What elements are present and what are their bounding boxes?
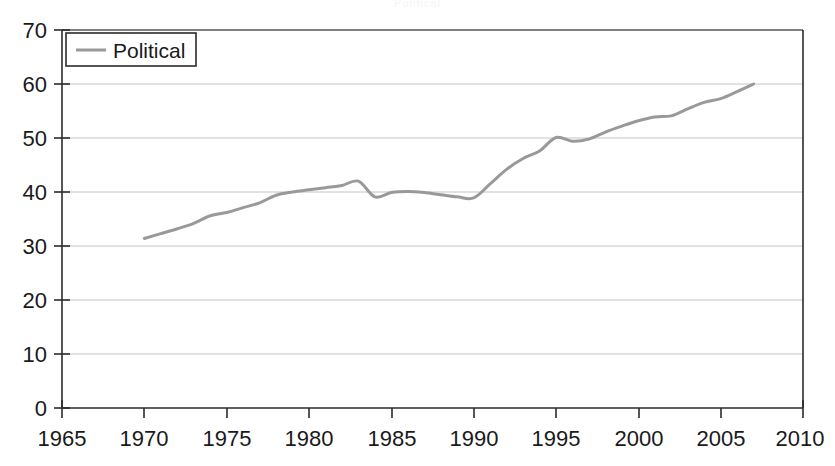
y-tick-label-0: 0 <box>35 396 47 421</box>
x-tick-label-1970: 1970 <box>120 426 169 451</box>
x-tick-label-1965: 1965 <box>38 426 87 451</box>
x-tick-label-1995: 1995 <box>532 426 581 451</box>
x-tick-label-2005: 2005 <box>697 426 746 451</box>
x-tick-label-2000: 2000 <box>615 426 664 451</box>
plot-frame <box>62 30 803 408</box>
x-tick-label-1985: 1985 <box>368 426 417 451</box>
y-tick-label-30: 30 <box>23 234 47 259</box>
x-tick-label-1990: 1990 <box>450 426 499 451</box>
legend-label-political: Political <box>113 39 185 62</box>
y-tick-label-60: 60 <box>23 72 47 97</box>
y-tick-label-20: 20 <box>23 288 47 313</box>
gridlines <box>62 30 803 354</box>
line-chart-plot: 70 60 50 40 30 20 10 0 1965 1970 1975 <box>0 0 835 466</box>
x-axis-ticks <box>62 400 803 418</box>
y-tick-label-50: 50 <box>23 126 47 151</box>
y-tick-label-40: 40 <box>23 180 47 205</box>
chart-figure: Political <box>0 0 835 466</box>
x-tick-label-1980: 1980 <box>285 426 334 451</box>
x-axis-tick-labels: 1965 1970 1975 1980 1985 1990 1995 2000 … <box>38 426 825 451</box>
series-line-political <box>144 84 753 238</box>
y-tick-label-70: 70 <box>23 18 47 43</box>
chart-legend[interactable]: Political <box>66 33 196 66</box>
y-axis-tick-labels: 70 60 50 40 30 20 10 0 <box>23 18 47 421</box>
y-tick-label-10: 10 <box>23 342 47 367</box>
x-tick-label-2010: 2010 <box>776 426 825 451</box>
x-tick-label-1975: 1975 <box>203 426 252 451</box>
